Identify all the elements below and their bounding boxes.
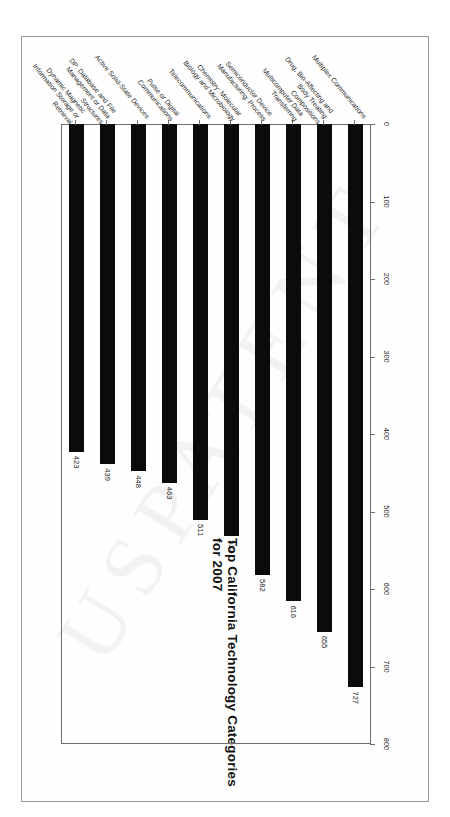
bar-value-label: 655 xyxy=(320,636,329,649)
scanned-page-sheet: USPATENT Top California Technology Categ… xyxy=(21,36,429,802)
bar-value-label: 448 xyxy=(134,475,143,488)
bar-value-label: 463 xyxy=(165,487,174,500)
axis-tick xyxy=(370,744,375,745)
axis-tick-label: 800 xyxy=(382,738,391,750)
axis-tick-label: 300 xyxy=(382,350,391,362)
bar xyxy=(100,124,115,464)
bar xyxy=(286,124,301,601)
bar-value-label: 439 xyxy=(103,468,112,481)
axis-tick xyxy=(370,589,375,590)
axis-tick xyxy=(370,667,375,668)
axis-tick xyxy=(370,279,375,280)
category-tick xyxy=(76,120,77,125)
category-tick xyxy=(200,120,201,125)
axis-tick xyxy=(370,202,375,203)
bar xyxy=(193,124,208,520)
category-tick xyxy=(138,120,139,125)
bar xyxy=(255,124,270,575)
bar xyxy=(69,124,84,452)
bar-value-label: 616 xyxy=(289,605,298,618)
axis-tick xyxy=(370,512,375,513)
axis-tick xyxy=(370,357,375,358)
bar-value-label: 582 xyxy=(258,579,267,592)
bar xyxy=(162,124,177,483)
axis-tick-label: 0 xyxy=(382,122,391,126)
bar-value-label: 423 xyxy=(72,456,81,469)
bar xyxy=(131,124,146,471)
bar-chart: Top California Technology Categories for… xyxy=(21,36,429,802)
bar xyxy=(317,124,332,632)
bar-value-label: 727 xyxy=(351,691,360,704)
bar-value-label: 532 xyxy=(227,540,236,553)
axis-tick-label: 400 xyxy=(382,428,391,440)
value-axis: 0100200300400500600700800 xyxy=(370,124,371,744)
category-tick xyxy=(355,120,356,125)
bar xyxy=(224,124,239,536)
category-tick xyxy=(107,120,108,125)
axis-tick xyxy=(370,434,375,435)
axis-tick-label: 700 xyxy=(382,660,391,672)
axis-tick-label: 100 xyxy=(382,195,391,207)
axis-tick xyxy=(370,124,375,125)
axis-tick-label: 600 xyxy=(382,583,391,595)
axis-tick-label: 200 xyxy=(382,273,391,285)
bar-value-label: 511 xyxy=(196,524,205,536)
bar xyxy=(348,124,363,687)
axis-tick-label: 500 xyxy=(382,505,391,517)
category-tick xyxy=(324,120,325,125)
